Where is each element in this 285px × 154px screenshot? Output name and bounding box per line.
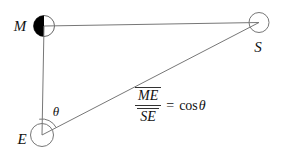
cos-angle-symbol: θ — [199, 98, 206, 113]
sun-label: S — [254, 40, 262, 55]
angle-label: θ — [53, 105, 59, 118]
formula-numerator: ME — [135, 87, 161, 105]
formula-denominator: SE — [137, 108, 159, 124]
formula-fraction: ME SE — [135, 87, 161, 124]
earth-label: E — [17, 132, 26, 147]
moon-shaded-half — [34, 16, 44, 37]
line-moon-sun — [44, 23, 259, 27]
moon-label: M — [14, 19, 27, 34]
equals-sign: = — [166, 99, 174, 113]
formula: ME SE = cosθ — [135, 87, 206, 124]
cos-term: cosθ — [179, 99, 206, 113]
diagram-canvas — [0, 0, 285, 154]
geometry-diagram: M E S θ ME SE = cosθ — [0, 0, 285, 154]
fraction-bar — [135, 105, 161, 106]
cos-function-name: cos — [179, 98, 198, 113]
